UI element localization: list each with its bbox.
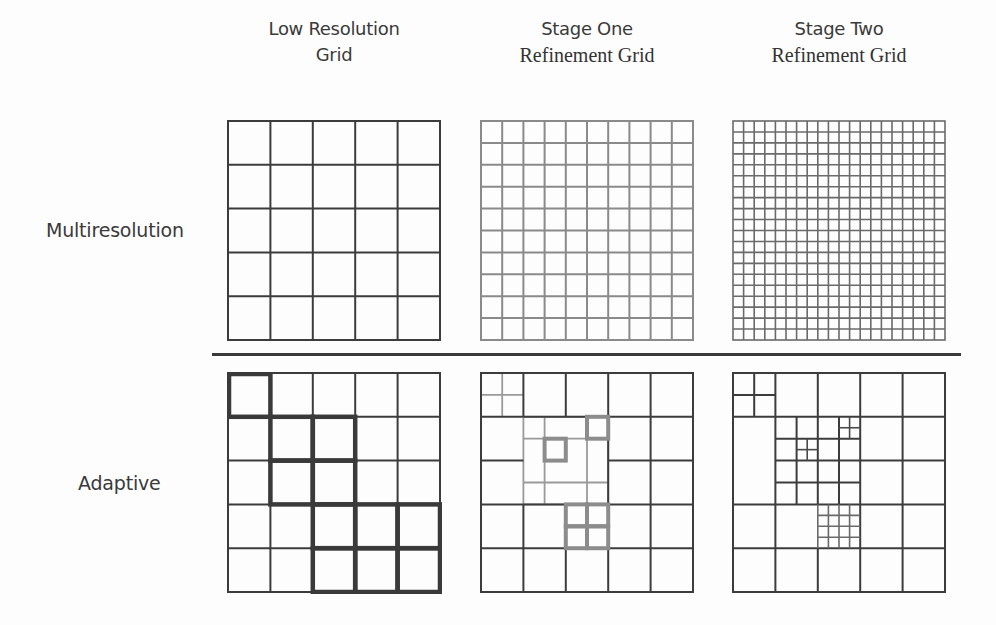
grid-multires-stage-one [480, 120, 695, 342]
grid-adaptive-stage-two [732, 372, 947, 594]
column-header-stage-two: Stage Two Refinement Grid [719, 16, 959, 68]
row-label-adaptive: Adaptive [78, 472, 161, 494]
header-line2: Grid [214, 42, 454, 68]
row-label-multiresolution: Multiresolution [46, 219, 184, 241]
section-divider [212, 353, 961, 356]
header-line1: Stage One [467, 16, 707, 42]
column-header-stage-one: Stage One Refinement Grid [467, 16, 707, 68]
header-line1: Low Resolution [214, 16, 454, 42]
header-line2: Refinement Grid [467, 42, 707, 68]
header-line2: Refinement Grid [719, 42, 959, 68]
grid-adaptive-low [227, 372, 442, 594]
column-header-low-resolution: Low Resolution Grid [214, 16, 454, 68]
grid-adaptive-stage-one [480, 372, 695, 594]
grid-multires-stage-two [732, 120, 947, 342]
grid-multires-low [227, 120, 442, 342]
header-line1: Stage Two [719, 16, 959, 42]
